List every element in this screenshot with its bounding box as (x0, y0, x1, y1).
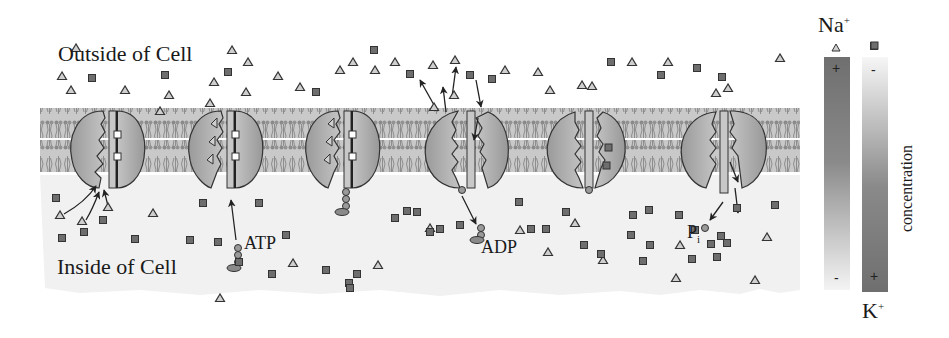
sodium-ion-outside (210, 78, 219, 86)
na-legend-label: Na+ (818, 14, 850, 36)
adp-label: ADP (481, 238, 517, 256)
potassium-ion-outside (719, 74, 726, 81)
potassium-ion-inside (81, 229, 88, 236)
na-symbol: Na (818, 12, 844, 37)
sodium-ion-outside (534, 68, 543, 76)
potassium-ion-inside (404, 208, 411, 215)
potassium-ion-inside (187, 237, 194, 244)
potassium-ion-inside (269, 271, 276, 278)
k-high-sign: + (870, 268, 878, 284)
pi-label-subscript: i (697, 233, 700, 245)
k-symbol: K (862, 298, 878, 323)
potassium-ion-inside (437, 226, 444, 233)
potassium-ion-inside (581, 242, 588, 249)
sodium-ion-outside (58, 72, 67, 80)
sodium-ion-outside (274, 72, 283, 80)
potassium-ion-outside (467, 72, 474, 79)
sodium-ion-outside (371, 66, 380, 74)
potassium-ion-inside (516, 199, 523, 206)
potassium-ion-inside (323, 267, 330, 274)
sodium-ion-outside (244, 58, 253, 66)
potassium-ion-inside (200, 200, 207, 207)
potassium-ion-inside (100, 217, 107, 224)
potassium-ion-inside (734, 205, 741, 212)
potassium-ion-inside (392, 215, 399, 222)
potassium-ion-inside (772, 202, 779, 209)
potassium-ion-outside (89, 75, 96, 82)
k-low-sign: - (871, 62, 876, 78)
na-low-sign: - (834, 270, 839, 286)
sodium-ion-outside (546, 86, 555, 94)
potassium-ion-inside (528, 226, 535, 233)
potassium-ion-inside (347, 285, 354, 292)
atp-label: ATP (244, 234, 276, 252)
pi-label-main: P (687, 222, 697, 242)
potassium-ion-inside (53, 195, 60, 202)
sodium-ion-inside (216, 294, 225, 302)
k-gradient-bar (862, 57, 888, 292)
sodium-ion-outside (391, 58, 400, 66)
potassium-ion-inside (236, 259, 243, 266)
potassium-ion-inside (689, 256, 696, 263)
potassium-ion-inside (283, 232, 290, 239)
sodium-ion-outside (336, 66, 345, 74)
potassium-ion-outside (225, 69, 232, 76)
k-legend-square (871, 42, 878, 49)
potassium-ion-inside (628, 232, 635, 239)
potassium-ion-inside (714, 254, 721, 261)
potassium-ion-inside (414, 209, 421, 216)
sodium-ion-outside (664, 58, 673, 66)
pi-label: Pi (687, 223, 700, 245)
sodium-ion-outside (206, 99, 215, 107)
sodium-ion-outside (776, 54, 785, 62)
potassium-ion-inside (724, 240, 731, 247)
na-charge: + (844, 14, 850, 26)
inside-of-cell-label: Inside of Cell (57, 256, 177, 278)
na-high-sign: + (832, 60, 840, 76)
sodium-ion-outside (67, 86, 76, 94)
potassium-ion-inside (718, 233, 725, 240)
sodium-ion-outside (242, 88, 251, 96)
sodium-ion-outside (430, 103, 439, 111)
sodium-ion-outside (578, 81, 587, 89)
na-gradient-bar (824, 57, 850, 290)
concentration-axis-label: concentration (898, 145, 916, 232)
potassium-ion-outside (162, 72, 169, 79)
potassium-ion-outside (371, 47, 378, 54)
potassium-ion-inside (630, 212, 637, 219)
concentration-legend (824, 42, 888, 292)
potassium-ion-inside (59, 235, 66, 242)
potassium-ion-inside (354, 271, 361, 278)
sodium-ion-outside (712, 89, 721, 97)
sodium-ion-outside (450, 91, 459, 99)
potassium-ion-inside (427, 229, 434, 236)
potassium-ion-inside (543, 226, 550, 233)
potassium-ion-inside (647, 242, 654, 249)
sodium-ion-outside (121, 86, 130, 94)
diagram: Outside of Cell Inside of Cell ATP ADP P… (0, 0, 949, 338)
sodium-ion-outside (501, 66, 510, 74)
phosphate-molecule (702, 225, 709, 232)
outside-of-cell-label: Outside of Cell (58, 43, 192, 65)
na-legend-triangle (832, 44, 840, 51)
sodium-ion-outside (349, 58, 358, 66)
potassium-ion-outside (658, 72, 665, 79)
k-legend-label: K+ (862, 300, 884, 322)
sodium-ion-outside (429, 61, 438, 69)
potassium-ion-outside (608, 59, 615, 66)
sodium-ion-outside (228, 46, 237, 54)
sodium-ion-outside (724, 84, 733, 92)
potassium-ion-inside (215, 239, 222, 246)
potassium-ion-outside (313, 89, 320, 96)
potassium-ion-inside (256, 200, 263, 207)
k-charge: + (878, 300, 884, 312)
sodium-ion-outside (165, 91, 174, 99)
potassium-ion-outside (407, 71, 414, 78)
potassium-ion-inside (640, 258, 647, 265)
potassium-ion-inside (646, 207, 653, 214)
sodium-ion-outside (296, 83, 305, 91)
potassium-ion-inside (563, 209, 570, 216)
sodium-ion-outside (588, 82, 597, 90)
potassium-ion-inside (598, 251, 605, 258)
sodium-ion-outside (628, 58, 637, 66)
